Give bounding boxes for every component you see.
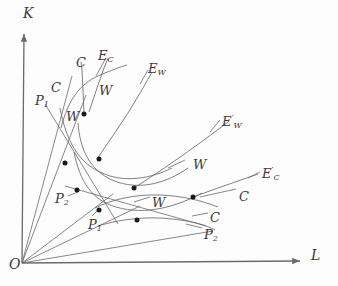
label-C-inner-upper-glyph: C	[76, 55, 86, 70]
label-EC-subscript: C	[108, 55, 114, 64]
point-upper-intersection	[82, 112, 87, 117]
label-C-right-upper-glyph: C	[239, 189, 249, 204]
label-P2-lower: P2	[204, 228, 218, 243]
k-axis	[22, 34, 24, 263]
point-P2-left	[75, 188, 80, 193]
label-P1-lower-glyph: P	[88, 217, 97, 232]
label-C-outer-upper-glyph: C	[51, 80, 61, 95]
label-P2-lower-subscript: 2	[213, 234, 218, 243]
label-P1-upper: P1	[35, 94, 49, 109]
label-C-inner-upper: C	[76, 56, 86, 69]
axis-label-K-glyph: K	[23, 5, 33, 21]
label-EW-glyph: E	[148, 61, 158, 76]
path-EW-prime	[134, 122, 228, 188]
label-EW: EW	[148, 62, 166, 77]
point-EWprime-left	[132, 186, 137, 191]
label-EC: EC	[98, 49, 114, 64]
axis-label-O-glyph: O	[9, 256, 20, 272]
label-W-mid-right-glyph: W	[193, 157, 206, 172]
l-axis	[22, 261, 300, 263]
label-C-right-lower-glyph: C	[210, 210, 220, 225]
label-EC-glyph: E	[98, 48, 108, 63]
line-C-leader-low	[192, 213, 208, 216]
line-W-label-leader-2	[134, 197, 150, 202]
ray-P2-flat	[22, 231, 213, 263]
label-W-upper-mid: W	[99, 84, 112, 97]
line-EWp-leader	[210, 120, 220, 132]
point-left-upper	[63, 161, 68, 166]
label-P1-lower: P1	[88, 218, 102, 233]
label-C-right-upper: C	[239, 190, 249, 203]
label-EW-subscript: W	[158, 68, 166, 77]
label-W-lower-mid-glyph: W	[152, 195, 165, 210]
label-EW-prime-subscript: W	[234, 121, 242, 130]
point-mid-upper	[97, 157, 102, 162]
label-W-upper-left: W	[66, 110, 79, 123]
label-P1-upper-subscript: 1	[44, 100, 49, 109]
axis-label-K: K	[23, 6, 33, 20]
label-W-lower-mid: W	[152, 196, 165, 209]
label-EW-prime-glyph: E	[222, 114, 232, 129]
point-P1-lower	[97, 208, 102, 213]
axis-label-L-glyph: L	[311, 247, 320, 263]
label-W-upper-mid-glyph: W	[99, 83, 112, 98]
label-P2-left-subscript: 2	[64, 198, 69, 207]
label-EC-prime: E′C	[262, 167, 280, 182]
label-C-right-lower: C	[210, 211, 220, 224]
label-EW-prime: E′W	[222, 115, 242, 130]
axis-label-O: O	[9, 257, 20, 271]
line-ECp-leader	[248, 172, 260, 178]
point-ECprime-right	[191, 195, 196, 200]
axis-label-L: L	[311, 248, 320, 262]
label-EC-prime-glyph: E	[262, 166, 272, 181]
line-C-leader-right	[200, 189, 236, 197]
label-P1-lower-subscript: 1	[97, 224, 102, 233]
line-P2-leader-left	[68, 192, 78, 196]
label-P1-upper-glyph: P	[35, 93, 44, 108]
isoquant-diagram: KLOP1CCECWWEWE′WWE′CCP2WP1CP2	[0, 0, 338, 286]
label-C-outer-upper: C	[51, 81, 61, 94]
label-P2-left-glyph: P	[55, 191, 64, 206]
point-lower-mid	[135, 218, 140, 223]
diagram-canvas	[0, 0, 338, 286]
label-P2-left: P2	[55, 192, 69, 207]
label-W-upper-left-glyph: W	[66, 109, 79, 124]
ray-mid	[22, 206, 140, 263]
isoquant-W-mid	[78, 123, 188, 185]
label-EC-prime-subscript: C	[274, 173, 280, 182]
label-W-mid-right: W	[193, 158, 206, 171]
label-P2-lower-glyph: P	[204, 227, 213, 242]
